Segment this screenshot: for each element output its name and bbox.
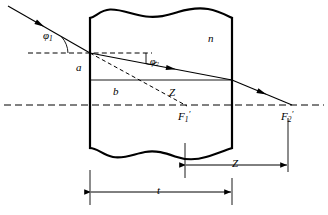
label-dimension-shift-z: Z <box>232 158 238 169</box>
virtual-ray-extension <box>90 53 187 106</box>
refracted-ray-arrowhead <box>166 65 177 72</box>
label-dimension-thickness-t: t <box>157 185 160 196</box>
refracted-ray-internal <box>90 53 232 80</box>
incident-ray-arrowhead <box>34 20 45 29</box>
label-angle-phi1: φ1 <box>43 30 53 42</box>
emergent-ray-arrowhead <box>256 88 267 97</box>
label-focus-first: F1′ <box>178 110 190 123</box>
plate-bottom-break-line <box>90 148 232 159</box>
label-angle-phi2: φ2 <box>150 57 159 68</box>
label-focus-second: F2′ <box>281 110 293 123</box>
plate-top-break-line <box>90 8 232 18</box>
label-height-b: b <box>113 86 119 97</box>
optical-ray-diagram-figure: φ1 φ2 n a b Z F1′ F2′ Z t <box>0 0 328 215</box>
label-shift-z-inner: Z <box>169 87 175 98</box>
label-refractive-index-n: n <box>208 33 214 44</box>
label-height-a: a <box>76 62 82 73</box>
